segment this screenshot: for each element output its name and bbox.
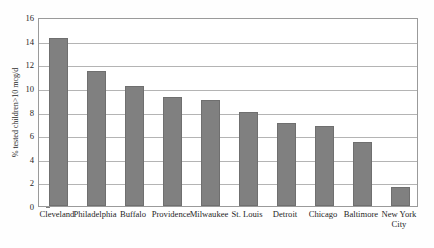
y-tick-label: 12 — [16, 60, 34, 70]
bar — [201, 100, 220, 206]
x-tick-label: New York City — [369, 209, 428, 229]
plot-area — [38, 18, 418, 207]
y-tick-label: 8 — [16, 108, 34, 118]
y-tick-label: 4 — [16, 155, 34, 165]
bar — [391, 187, 410, 206]
y-tick-label: 16 — [16, 13, 34, 23]
bar — [239, 112, 258, 207]
bar — [353, 142, 372, 206]
bar — [125, 86, 144, 206]
bar-chart-figure: % tested children>10 mcg/d 0246810121416… — [0, 0, 434, 248]
bar — [277, 123, 296, 206]
bar-series — [39, 19, 417, 206]
y-tick-label: 10 — [16, 84, 34, 94]
bar — [49, 38, 68, 206]
y-tick-label: 14 — [16, 37, 34, 47]
bar — [163, 97, 182, 206]
bar — [87, 71, 106, 206]
x-axis-labels: ClevelandPhiladelphiaBuffaloProvidenceMi… — [38, 209, 418, 248]
y-tick-label: 6 — [16, 131, 34, 141]
y-tick-mark — [46, 207, 50, 208]
y-tick-label: 2 — [16, 178, 34, 188]
bar — [315, 126, 334, 206]
